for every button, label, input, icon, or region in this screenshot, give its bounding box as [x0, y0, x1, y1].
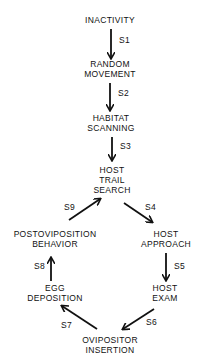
- node-line: POSTOVIPOSITION: [14, 229, 97, 239]
- node-line: HABITAT: [87, 113, 134, 123]
- node-line: BEHAVIOR: [14, 239, 97, 249]
- edge-label-s1: S1: [119, 35, 130, 45]
- node-line: DEPOSITION: [27, 293, 82, 303]
- edge-label-s7: S7: [61, 320, 72, 330]
- edge-label-s9: S9: [64, 202, 75, 212]
- node-line: HOST: [141, 229, 191, 239]
- node-habitat-scanning: HABITAT SCANNING: [87, 113, 134, 133]
- edge-label-s8: S8: [34, 261, 45, 271]
- node-postoviposition-behavior: POSTOVIPOSITION BEHAVIOR: [14, 229, 97, 249]
- node-inactivity: INACTIVITY: [85, 15, 135, 25]
- node-line: EGG: [27, 283, 82, 293]
- node-line: EXAM: [152, 293, 177, 303]
- node-line: APPROACH: [141, 239, 191, 249]
- edge-label-s3: S3: [120, 141, 131, 151]
- edge-label-s5: S5: [174, 261, 185, 271]
- node-ovipositor-insertion: OVIPOSITOR INSERTION: [82, 335, 138, 355]
- edge-label-s4: S4: [145, 202, 156, 212]
- node-egg-deposition: EGG DEPOSITION: [27, 283, 82, 303]
- node-line: RANDOM: [84, 59, 136, 69]
- node-host-exam: HOST EXAM: [152, 283, 177, 303]
- edge-label-s2: S2: [118, 88, 129, 98]
- node-line: SCANNING: [87, 123, 134, 133]
- node-line: INSERTION: [82, 345, 138, 355]
- node-line: SEARCH: [93, 185, 130, 195]
- node-line: TRAIL: [93, 175, 130, 185]
- node-random-movement: RANDOM MOVEMENT: [84, 59, 136, 79]
- node-line: INACTIVITY: [85, 15, 135, 25]
- node-line: HOST: [152, 283, 177, 293]
- edge-label-s6: S6: [146, 317, 157, 327]
- node-line: HOST: [93, 165, 130, 175]
- node-line: OVIPOSITOR: [82, 335, 138, 345]
- node-host-trail-search: HOST TRAIL SEARCH: [93, 165, 130, 195]
- node-host-approach: HOST APPROACH: [141, 229, 191, 249]
- node-line: MOVEMENT: [84, 69, 136, 79]
